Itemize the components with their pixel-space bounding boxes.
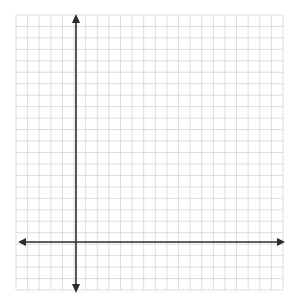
coordinate-plane xyxy=(0,0,303,306)
x-axis-right-arrow-icon xyxy=(277,238,285,246)
y-axis xyxy=(72,14,80,293)
x-axis xyxy=(18,238,285,246)
grid-lines xyxy=(16,15,283,290)
x-axis-left-arrow-icon xyxy=(18,238,26,246)
y-axis-down-arrow-icon xyxy=(72,284,80,293)
